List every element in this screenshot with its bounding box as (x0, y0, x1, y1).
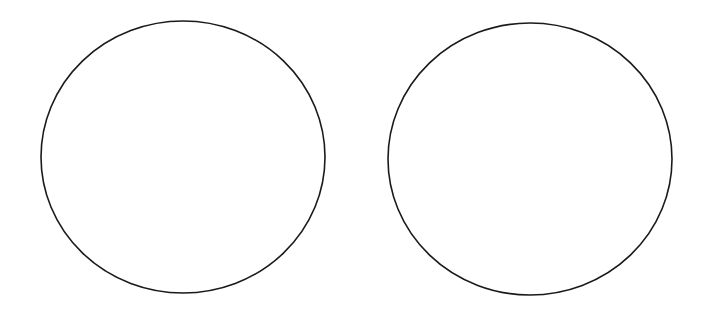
background (0, 0, 705, 313)
diagram-canvas (0, 0, 705, 313)
